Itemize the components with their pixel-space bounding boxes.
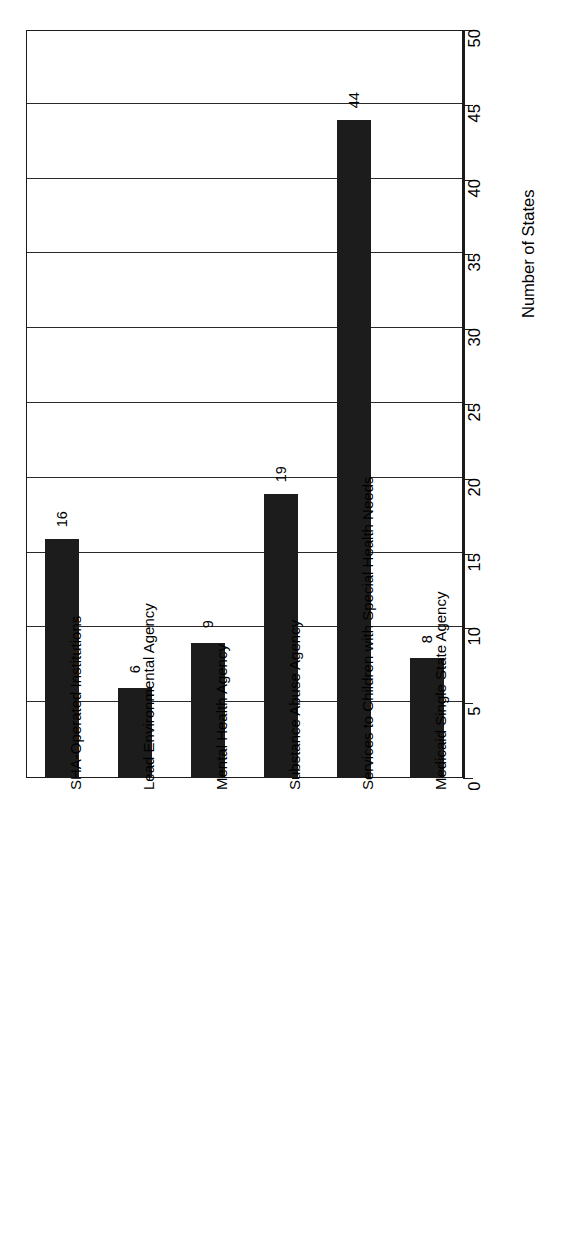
bar-value-label: 9: [201, 620, 216, 628]
category-label: SHA-Operated Institutions: [68, 616, 83, 790]
axis-tick-label: 30: [466, 328, 483, 346]
axis-tick-label: 15: [466, 553, 483, 571]
bar-value-label: 19: [274, 466, 289, 482]
bar-slot: 19: [245, 30, 318, 778]
category-label: Medicaid Single State Agency: [433, 592, 448, 790]
category-label: Lead Environmental Agency: [141, 603, 156, 790]
bar-slot: 8: [390, 30, 463, 778]
category-label: Mental Health Agency: [214, 644, 229, 790]
category-label: Substance Abuse Agency: [287, 620, 302, 790]
axis-tick-label: 45: [466, 104, 483, 122]
bar-slot: 6: [99, 30, 172, 778]
bar-slot: 16: [26, 30, 99, 778]
axis-tick-label: 25: [466, 403, 483, 421]
bar-value-label: 16: [55, 511, 70, 527]
axis-tick-label: 5: [466, 707, 483, 716]
axis-tick-label: 40: [466, 179, 483, 197]
axis-tick-label: 50: [466, 29, 483, 47]
bar-slot: 9: [172, 30, 245, 778]
bar-value-label: 44: [346, 92, 361, 108]
axis-tick-label: 10: [466, 627, 483, 645]
axis-tick: [463, 778, 473, 779]
axis-tick-label: 0: [466, 782, 483, 791]
axis-tick-label: 35: [466, 253, 483, 271]
axis-tick: [463, 703, 473, 704]
value-axis-title: Number of States: [520, 190, 537, 318]
axis-tick-label: 20: [466, 478, 483, 496]
bar-chart-figure: 166919448 Number of States SHA-Operated …: [0, 0, 562, 1256]
category-labels: SHA-Operated InstitutionsLead Environmen…: [26, 790, 463, 1250]
bars-layer: 166919448: [26, 30, 463, 778]
bar-slot: 44: [317, 30, 390, 778]
category-label: Services to Children with Special Health…: [360, 477, 375, 790]
